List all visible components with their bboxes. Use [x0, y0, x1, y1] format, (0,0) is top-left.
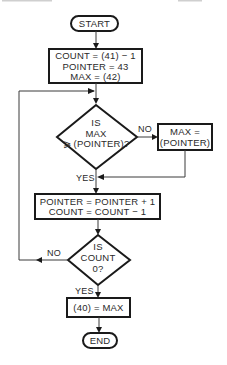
edge-label-yes: YES — [75, 286, 94, 296]
store-process-box: (40) = MAX — [67, 298, 130, 317]
cropped-caption-fragment — [178, 0, 202, 2]
arrow-left-icon — [97, 174, 104, 180]
arrow-down-icon — [93, 98, 99, 104]
flowchart: START COUNT = (41) − 1 POINTER = 43 MAX … — [0, 0, 227, 365]
init-process-box: COUNT = (41) − 1 POINTER = 43 MAX = (42) — [49, 49, 142, 83]
decision-count-line-1: IS — [93, 241, 102, 252]
end-label: END — [90, 335, 111, 346]
arrow-left-icon — [36, 257, 42, 263]
end-terminal: END — [83, 333, 117, 348]
edge-label-yes: YES — [76, 173, 95, 183]
store-label: (40) = MAX — [73, 302, 124, 313]
init-line-1: COUNT = (41) − 1 — [55, 50, 136, 61]
decision-count-line-2: COUNT — [81, 252, 116, 263]
decision-max-line-1: IS — [91, 117, 100, 128]
start-terminal: START — [71, 16, 118, 31]
cropped-caption-fragment — [2, 0, 52, 2]
decision-count-line-3: 0? — [93, 263, 104, 274]
increment-process-box: POINTER = POINTER + 1 COUNT = COUNT − 1 — [35, 194, 160, 219]
decision-max-diamond: IS MAX ⩾ (POINTER)? — [57, 105, 137, 169]
arrow-right-icon — [88, 88, 95, 94]
set-max-line-2: (POINTER) — [160, 137, 210, 148]
set-max-process-box: MAX = (POINTER) — [158, 124, 212, 150]
edge-label-no: NO — [47, 248, 61, 258]
increment-line-2: COUNT = COUNT − 1 — [49, 206, 147, 217]
set-max-line-1: MAX = — [170, 126, 200, 137]
increment-line-1: POINTER = POINTER + 1 — [40, 196, 156, 207]
decision-max-line-2: MAX — [85, 128, 107, 139]
init-line-2: POINTER = 43 — [62, 61, 128, 72]
edge-label-no: NO — [138, 124, 152, 134]
decision-count-diamond: IS COUNT 0? — [68, 235, 130, 285]
init-line-3: MAX = (42) — [70, 71, 120, 82]
start-label: START — [79, 18, 110, 29]
decision-max-line-3: ⩾ (POINTER)? — [63, 138, 130, 149]
